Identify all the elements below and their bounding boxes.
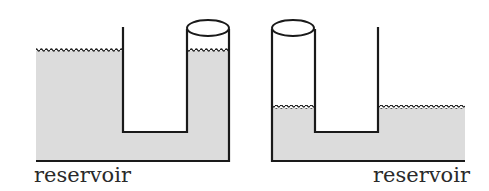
right-panel: reservoir — [272, 20, 471, 187]
left-reservoir-label: reservoir — [34, 163, 132, 187]
left-tube-surface — [187, 48, 229, 52]
left-tube-opening — [187, 20, 229, 36]
left-reservoir-surface — [36, 48, 123, 52]
right-tube-opening — [272, 20, 314, 36]
diagram-canvas: reservoir reservoir — [0, 0, 489, 191]
right-reservoir-surface — [378, 105, 465, 109]
right-reservoir-label: reservoir — [373, 163, 471, 187]
left-panel: reservoir — [34, 20, 229, 187]
right-liquid — [272, 108, 465, 161]
right-tube-surface — [272, 105, 315, 109]
left-liquid — [36, 51, 229, 161]
